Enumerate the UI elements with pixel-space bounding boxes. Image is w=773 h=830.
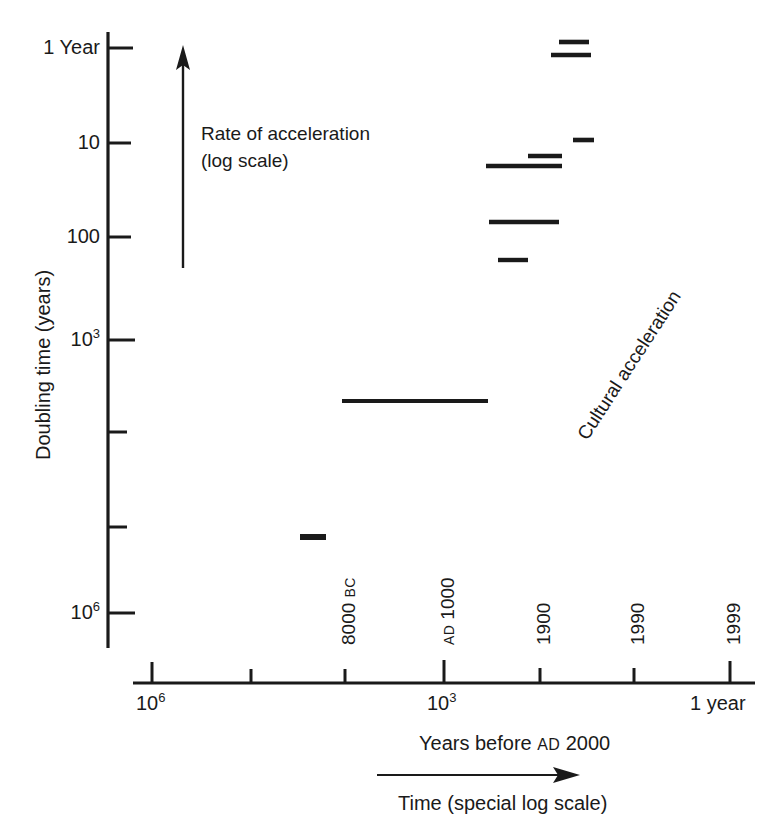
date-label-1990: 1990 — [627, 603, 649, 645]
data-bars — [300, 42, 594, 537]
x-tick-label-mid: 103 — [427, 692, 456, 716]
rate-arrow — [176, 45, 190, 268]
y-axis-title: Doubling time (years) — [32, 270, 56, 460]
date-label-8000bc: 8000 BC — [338, 577, 360, 645]
chart-figure: 1 Year 10 100 103 106 Doubling time (yea… — [0, 0, 773, 830]
time-arrow — [377, 767, 580, 783]
x-tick-label-left-base: 10 — [136, 692, 158, 714]
x-tick-label-mid-base: 10 — [427, 692, 449, 714]
x-axis-title-era: AD — [537, 736, 560, 753]
y-tick-label-1000000-exponent: 6 — [93, 599, 100, 614]
date-label-ad1000-year: 1000 — [437, 577, 458, 619]
x-axis-title-year: 2000 — [566, 732, 611, 754]
x-tick-label-right: 1 year — [690, 692, 746, 716]
date-label-8000bc-year: 8000 — [338, 603, 359, 645]
x-axis-title: Years before AD 2000 — [419, 732, 610, 756]
y-tick-label-10: 10 — [0, 131, 100, 155]
time-scale-label: Time (special log scale) — [398, 792, 607, 816]
x-tick-label-mid-exponent: 3 — [449, 690, 456, 705]
x-tick-label-left: 106 — [136, 692, 165, 716]
y-tick-label-1year: 1 Year — [0, 36, 100, 60]
date-label-1900: 1900 — [533, 603, 555, 645]
x-tick-label-left-exponent: 6 — [158, 690, 165, 705]
rate-of-acceleration-label-line2: (log scale) — [201, 150, 289, 172]
x-axis-title-main: Years before — [419, 732, 532, 754]
y-tick-label-100: 100 — [0, 225, 100, 249]
date-label-1999: 1999 — [723, 603, 745, 645]
date-label-8000bc-era: BC — [342, 577, 358, 597]
date-label-ad1000: AD 1000 — [437, 577, 459, 645]
y-tick-label-1000-base: 10 — [71, 328, 93, 350]
y-tick-label-1000-exponent: 3 — [93, 326, 100, 341]
y-tick-label-1000000: 106 — [0, 601, 100, 625]
y-tick-label-1000000-base: 10 — [71, 601, 93, 623]
rate-of-acceleration-label-line1: Rate of acceleration — [201, 123, 370, 145]
chart-canvas — [0, 0, 773, 830]
date-label-ad1000-era: AD — [441, 625, 457, 645]
